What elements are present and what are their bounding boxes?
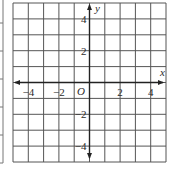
y-arrow-down-icon [87, 153, 92, 159]
origin-label: O [77, 85, 85, 97]
coordinate-plane-figure: −4−22442−2−4 x y O [0, 0, 171, 173]
y-tick-label: 2 [81, 45, 87, 57]
x-tick-label: 2 [117, 86, 123, 98]
x-axis-label: x [159, 66, 165, 78]
x-arrow-left-icon [14, 80, 20, 85]
x-tick-label: −4 [22, 86, 34, 98]
y-arrow-up-icon [87, 4, 92, 10]
y-axis-label: y [94, 2, 100, 14]
x-tick-label: 4 [148, 86, 154, 98]
y-tick-label: 4 [81, 13, 87, 25]
axes [14, 4, 164, 159]
coordinate-grid-svg: −4−22442−2−4 x y O [0, 0, 171, 173]
y-tick-label: −4 [75, 140, 87, 152]
y-tick-label: −2 [75, 108, 87, 120]
x-arrow-right-icon [158, 80, 164, 85]
x-tick-label: −2 [53, 86, 65, 98]
adjacent-figure-edge [0, 0, 3, 163]
